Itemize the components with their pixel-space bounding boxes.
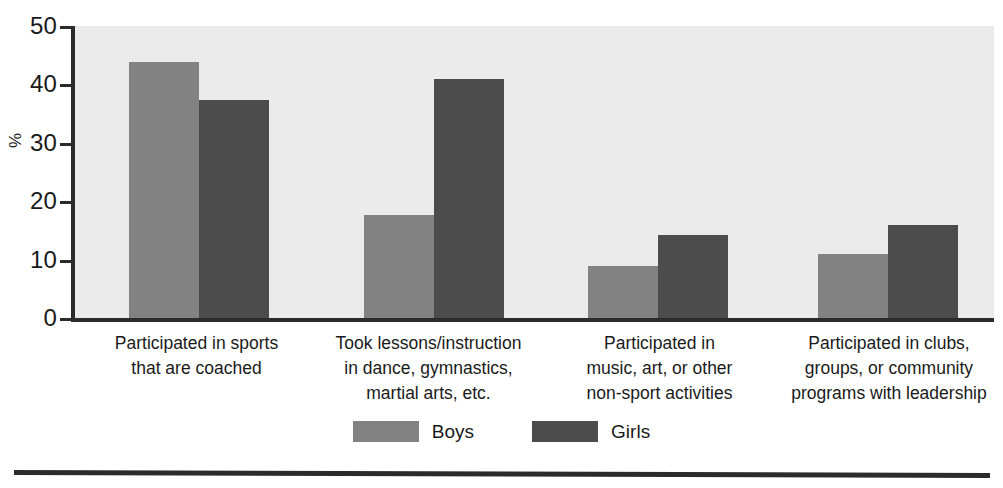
- category-label-1: Participated in sports that are coached: [89, 331, 304, 381]
- category-label-4-line-3: programs with leadership: [775, 381, 1003, 406]
- legend-swatch-girls: [532, 421, 598, 442]
- chart-figure: 50 40 30 20 10 0 % Participated in sport…: [0, 0, 1003, 488]
- y-tick-label-50: 50: [5, 14, 57, 38]
- category-label-2-line-1: Took lessons/instruction: [320, 331, 537, 356]
- footer-rule: [14, 470, 990, 478]
- bar-group-1-girls: [199, 100, 269, 320]
- category-label-2-line-2: in dance, gymnastics,: [320, 356, 537, 381]
- category-label-3: Participated in music, art, or other non…: [557, 331, 762, 406]
- bar-group-3-boys: [588, 266, 658, 320]
- bar-group-2-girls: [434, 79, 504, 320]
- y-axis: 50 40 30 20 10 0: [0, 0, 57, 340]
- y-axis-title: %: [6, 133, 26, 148]
- category-label-2-line-3: martial arts, etc.: [320, 381, 537, 406]
- category-label-4-line-2: groups, or community: [775, 356, 1003, 381]
- category-label-3-line-3: non-sport activities: [557, 381, 762, 406]
- legend-item-girls: Girls: [532, 421, 650, 442]
- category-label-4: Participated in clubs, groups, or commun…: [775, 331, 1003, 406]
- legend: Boys Girls: [0, 418, 1003, 444]
- y-axis-line: [71, 26, 75, 322]
- plot-area: [75, 26, 994, 320]
- x-axis-line: [71, 318, 994, 322]
- x-axis-category-labels: Participated in sports that are coached …: [0, 331, 1003, 413]
- legend-swatch-boys: [353, 421, 419, 442]
- category-label-3-line-2: music, art, or other: [557, 356, 762, 381]
- bar-group-1-boys: [129, 62, 199, 320]
- bar-group-2-boys: [364, 215, 434, 320]
- bar-group-3-girls: [658, 235, 728, 320]
- legend-label-girls: Girls: [611, 422, 650, 441]
- y-tick-label-20: 20: [5, 189, 57, 213]
- y-tick-label-40: 40: [5, 72, 57, 96]
- y-tick-label-10: 10: [5, 248, 57, 272]
- category-label-4-line-1: Participated in clubs,: [775, 331, 1003, 356]
- legend-label-boys: Boys: [432, 422, 474, 441]
- y-tick-label-0: 0: [5, 306, 57, 330]
- bar-group-4-girls: [888, 225, 958, 320]
- category-label-1-line-2: that are coached: [89, 356, 304, 381]
- bar-group-4-boys: [818, 254, 888, 320]
- category-label-1-line-1: Participated in sports: [89, 331, 304, 356]
- category-label-3-line-1: Participated in: [557, 331, 762, 356]
- category-label-2: Took lessons/instruction in dance, gymna…: [320, 331, 537, 406]
- legend-item-boys: Boys: [353, 421, 474, 442]
